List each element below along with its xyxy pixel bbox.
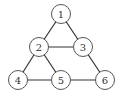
node-6: 6 — [96, 71, 115, 90]
graph-diagram: 123456 — [0, 0, 124, 102]
node-5: 5 — [52, 71, 71, 90]
node-1: 1 — [52, 5, 71, 24]
node-label: 4 — [15, 75, 21, 86]
node-label: 2 — [36, 42, 42, 53]
node-label: 3 — [80, 42, 86, 53]
node-4: 4 — [9, 71, 28, 90]
node-2: 2 — [30, 38, 49, 57]
node-label: 5 — [58, 75, 64, 86]
node-label: 1 — [58, 9, 64, 20]
node-3: 3 — [74, 38, 93, 57]
node-label: 6 — [102, 75, 108, 86]
